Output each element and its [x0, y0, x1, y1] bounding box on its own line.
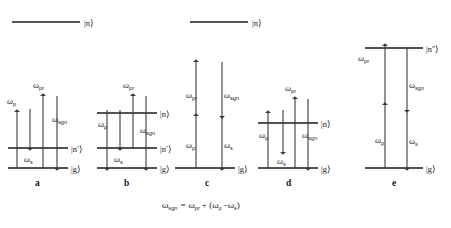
panel-c-label-omega-sgn: ωsgn: [224, 90, 239, 101]
panel-c-label-omega-p: ωp: [186, 140, 195, 151]
eq-plus-open: + (: [202, 200, 212, 210]
top-level-ket-1: |n⟩: [84, 18, 94, 28]
panel-a-label-omega-p-sub: p: [13, 101, 16, 107]
panel-e-label-omega-sgn: ωsgn: [409, 80, 424, 91]
panel-b-ket-n-prime: |n′⟩: [160, 144, 172, 154]
panel-c-label-omega-s-sub: s: [230, 145, 233, 151]
panel-b-label-omega-pr-sub: pr: [129, 85, 134, 91]
panel-d-label-omega-s: ωs: [277, 156, 286, 167]
panel-d-ket-n: |n⟩: [321, 119, 331, 129]
panel-b-label-omega-s-sub: s: [120, 159, 123, 165]
panel-b-letter: b: [124, 178, 129, 188]
eq-omega-pr-sub: pr: [195, 205, 200, 211]
panel-e-label-omega-sgn-sub: sgn: [415, 85, 424, 91]
panel-d-label-omega-sgn: ωsgn: [302, 130, 317, 141]
panel-b-label-omega-p-sub: p: [104, 124, 107, 130]
panel-c-label-omega-p-sub: p: [192, 145, 195, 151]
panel-e-label-omega-s: ωs: [409, 136, 418, 147]
panel-d: |n⟩ |g⟩ ωp ωs ωpr ωsgn d: [258, 83, 331, 188]
top-level-ket-2: |n⟩: [252, 18, 262, 28]
panel-e-label-omega-s-sub: s: [415, 141, 418, 147]
panel-c: |g⟩ ωp ωpr ωsgn ωs c: [175, 62, 248, 188]
eq-equals: =: [180, 200, 185, 210]
panel-b-ket-n: |n⟩: [160, 109, 170, 119]
panel-e: |n″⟩ |g⟩ ωp ωpr ωsgn ωs e: [358, 44, 440, 189]
panel-a-label-omega-p: ωp: [7, 96, 16, 107]
panel-d-ket-g: |g⟩: [321, 164, 331, 174]
panel-a-label-omega-s: ωs: [24, 154, 33, 165]
panel-c-label-omega-sgn-sub: sgn: [230, 95, 239, 101]
panel-b-label-omega-sgn: ωsgn: [140, 125, 155, 136]
panel-b-label-omega-sgn-sub: sgn: [146, 130, 155, 136]
panel-a-label-omega-pr-sub: pr: [39, 85, 44, 91]
panel-d-letter: d: [286, 178, 292, 188]
equation-text: ωsgn=ωpr+ (ωp−ωs): [162, 200, 240, 211]
top-level-group-2: |n⟩: [190, 18, 262, 28]
panel-c-ket-g: |g⟩: [238, 164, 248, 174]
eq-omega-p-sub: p: [219, 205, 222, 211]
panel-b-label-omega-pr: ωpr: [123, 80, 134, 91]
panel-c-label-omega-s: ωs: [224, 140, 233, 151]
panel-b-label-omega-p: ωp: [98, 119, 107, 130]
panel-a-label-omega-sgn-sub: sgn: [58, 119, 67, 125]
eq-close: ): [237, 200, 240, 210]
eq-omega-sgn-sub: sgn: [168, 205, 177, 211]
panel-e-label-omega-p: ωp: [375, 135, 384, 146]
panel-e-ket-n-double-prime: |n″⟩: [426, 44, 440, 54]
panel-e-letter: e: [392, 178, 396, 188]
panel-d-label-omega-p-sub: p: [265, 135, 268, 141]
panel-c-letter: c: [205, 178, 209, 188]
panel-d-label-omega-s-sub: s: [283, 161, 286, 167]
panel-c-label-omega-pr-sub: pr: [192, 95, 197, 101]
panel-d-label-omega-pr: ωpr: [285, 83, 296, 94]
panel-e-label-omega-p-sub: p: [381, 140, 384, 146]
panel-a-label-omega-sgn: ωsgn: [52, 114, 67, 125]
panel-b-label-omega-s: ωs: [114, 154, 123, 165]
panel-d-label-omega-p: ωp: [259, 130, 268, 141]
panel-a-label-omega-s-sub: s: [30, 159, 33, 165]
panel-d-label-omega-sgn-sub: sgn: [308, 135, 317, 141]
panel-b-ket-g: |g⟩: [160, 164, 170, 174]
figure-canvas: |n⟩ |n⟩ |n′⟩ |g⟩ ωp ωs ωpr ωsgn a |n⟩ |n…: [0, 0, 451, 228]
panel-a-ket-g: |g⟩: [71, 164, 81, 174]
panel-e-ket-g: |g⟩: [426, 164, 436, 174]
panel-d-label-omega-pr-sub: pr: [291, 88, 296, 94]
energy-level-figure: |n⟩ |n⟩ |n′⟩ |g⟩ ωp ωs ωpr ωsgn a |n⟩ |n…: [0, 0, 451, 228]
panel-b: |n⟩ |n′⟩ |g⟩ ωp ωs ωpr ωsgn b: [97, 80, 172, 188]
panel-e-label-omega-pr-sub: pr: [364, 58, 369, 64]
caption-equation: ωsgn=ωpr+ (ωp−ωs): [162, 200, 240, 211]
panel-e-label-omega-pr: ωpr: [358, 53, 369, 64]
panel-a: |n′⟩ |g⟩ ωp ωs ωpr ωsgn a: [7, 80, 83, 188]
panel-a-letter: a: [35, 178, 40, 188]
panel-a-ket-n-prime: |n′⟩: [71, 144, 83, 154]
top-level-group-1: |n⟩: [12, 18, 94, 28]
panel-a-label-omega-pr: ωpr: [33, 80, 44, 91]
